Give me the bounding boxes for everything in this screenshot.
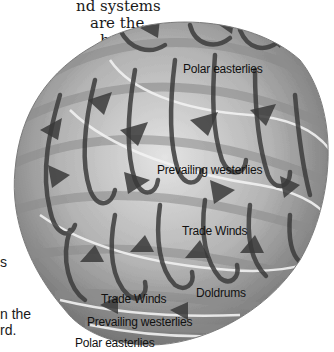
label-prevailing-westerlies-north: Prevailing westerlies bbox=[157, 163, 262, 177]
label-polar-easterlies-south: Polar easterlies bbox=[75, 336, 155, 350]
globe-body bbox=[10, 14, 334, 345]
label-polar-easterlies-north: Polar easterlies bbox=[183, 62, 263, 76]
label-trade-winds-south: Trade Winds bbox=[101, 292, 166, 306]
label-doldrums: Doldrums bbox=[196, 286, 246, 300]
label-prevailing-westerlies-south: Prevailing westerlies bbox=[87, 315, 192, 329]
label-trade-winds-north: Trade Winds bbox=[182, 224, 247, 238]
